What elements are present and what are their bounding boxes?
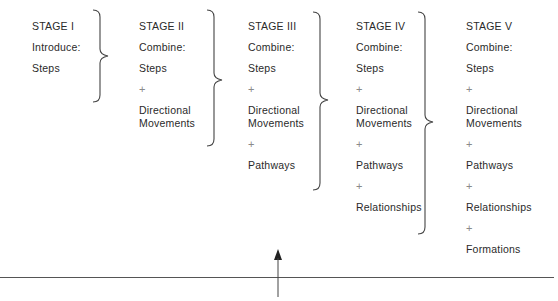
plus-sign: + [356,138,422,151]
brace-icon-stage-4 [417,11,435,235]
stage-5-item-steps: Steps [466,62,532,75]
stage-3-item-movements: Movements [248,117,304,130]
stage-5-item-relationships: Relationships [466,201,532,214]
stage-5-item-pathways: Pathways [466,159,532,172]
plus-sign: + [466,138,532,151]
stage-2-column: STAGE II Combine: Steps + Directional Mo… [139,20,195,130]
plus-sign: + [139,83,195,96]
stage-5-title: STAGE V [466,20,532,33]
stage-4-item-relationships: Relationships [356,201,422,214]
plus-sign: + [466,222,532,235]
stage-4-verb: Combine: [356,41,422,54]
stage-1-column: STAGE I Introduce: Steps [32,20,81,75]
stage-5-item-movements: Movements [466,117,532,130]
plus-sign: + [466,180,532,193]
stage-2-item-directional: Directional [139,104,195,117]
brace-icon-stage-1 [92,9,110,103]
stage-4-title: STAGE IV [356,20,422,33]
stage-2-verb: Combine: [139,41,195,54]
stage-4-column: STAGE IV Combine: Steps + Directional Mo… [356,20,422,214]
plus-sign: + [248,138,304,151]
plus-sign: + [356,180,422,193]
plus-sign: + [466,83,532,96]
plus-sign: + [248,83,304,96]
stage-3-verb: Combine: [248,41,304,54]
stage-3-column: STAGE III Combine: Steps + Directional M… [248,20,304,172]
stage-2-title: STAGE II [139,20,195,33]
stage-5-verb: Combine: [466,41,532,54]
stage-5-item-directional: Directional [466,104,532,117]
stage-4-item-steps: Steps [356,62,422,75]
stage-4-item-pathways: Pathways [356,159,422,172]
brace-icon-stage-3 [312,11,330,191]
stage-1-item-steps: Steps [32,62,81,75]
stage-3-title: STAGE III [248,20,304,33]
stage-2-item-movements: Movements [139,117,195,130]
stage-3-item-directional: Directional [248,104,304,117]
stage-1-verb: Introduce: [32,41,81,54]
plus-sign: + [356,83,422,96]
stage-2-item-steps: Steps [139,62,195,75]
stage-3-item-pathways: Pathways [248,159,304,172]
stage-1-title: STAGE I [32,20,81,33]
stage-5-item-formations: Formations [466,243,532,256]
up-arrow-icon [273,248,283,298]
stage-4-item-directional: Directional [356,104,422,117]
stage-4-item-movements: Movements [356,117,422,130]
brace-icon-stage-2 [206,9,224,147]
stage-5-column: STAGE V Combine: Steps + Directional Mov… [466,20,532,256]
stage-3-item-steps: Steps [248,62,304,75]
